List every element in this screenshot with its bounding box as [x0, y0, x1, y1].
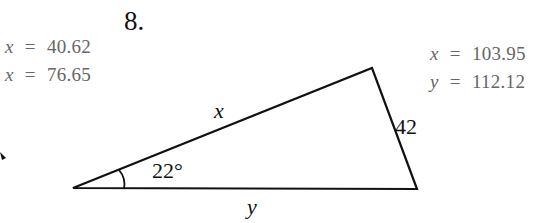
side-42-label: 42 — [395, 114, 417, 140]
triangle-shape — [73, 68, 417, 189]
side-y-label: y — [247, 194, 257, 220]
triangle-diagram — [0, 0, 534, 223]
angle-label: 22° — [152, 158, 183, 184]
edge-mark — [0, 152, 6, 160]
angle-arc — [119, 170, 124, 189]
side-x-label: x — [214, 98, 224, 124]
